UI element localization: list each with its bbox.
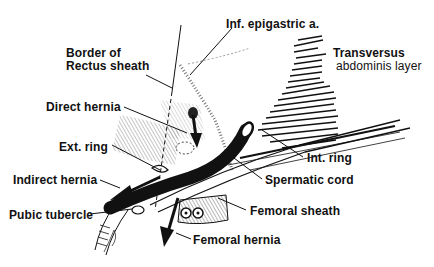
label-int-ring: Int. ring <box>307 152 352 165</box>
femoral-hernia-arrow <box>160 198 178 247</box>
label-pubic-tubercle: Pubic tubercle <box>9 209 93 222</box>
label-abdominis-layer: abdominis layer <box>336 60 422 73</box>
label-indirect-hernia: Indirect hernia <box>13 174 97 187</box>
transversus-abdominis-layer <box>258 36 338 148</box>
label-inf-epigastric: Inf. epigastric a. <box>226 18 319 31</box>
label-femoral-sheath: Femoral sheath <box>250 205 340 218</box>
hernia-anatomy-diagram: Inf. epigastric a. Border of Rectus shea… <box>0 0 434 267</box>
anatomy-illustration <box>0 0 434 267</box>
label-spermatic-cord: Spermatic cord <box>265 174 354 187</box>
label-rectus-sheath: Rectus sheath <box>66 60 149 73</box>
label-direct-hernia: Direct hernia <box>46 101 121 114</box>
label-ext-ring: Ext. ring <box>59 141 108 154</box>
label-femoral-hernia: Femoral hernia <box>193 234 280 247</box>
